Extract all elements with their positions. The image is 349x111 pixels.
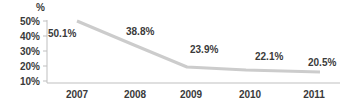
line-chart: % 50% 40% 30% 20% 10% 50.1% 38.8% 23.9% … xyxy=(0,0,349,111)
x-axis-tick-label-2007: 2007 xyxy=(54,89,100,100)
x-axis-tick-label-2010: 2010 xyxy=(227,89,273,100)
x-axis-tick-label-2008: 2008 xyxy=(112,89,158,100)
x-axis-tick-label-2011: 2011 xyxy=(291,89,337,100)
data-label-2008: 38.8% xyxy=(126,26,154,37)
data-label-2010: 22.1% xyxy=(255,51,283,62)
data-label-2009: 23.9% xyxy=(190,44,218,55)
data-label-2007: 50.1% xyxy=(48,28,76,39)
data-label-2011: 20.5% xyxy=(308,57,336,68)
x-axis-tick-label-2009: 2009 xyxy=(168,89,214,100)
